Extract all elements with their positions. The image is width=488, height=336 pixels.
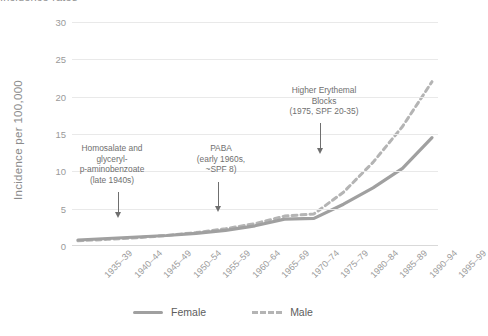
x-axis-tick-labels: 1935–391940–441945–491950–541955–591960–… bbox=[72, 248, 438, 296]
y-tick-25: 25 bbox=[55, 54, 66, 65]
y-tick-0: 0 bbox=[61, 241, 66, 252]
annotation-erythemal: Higher Erythemal Blocks (1975, SPF 20-35… bbox=[272, 85, 376, 117]
x-tick-1: 1940–44 bbox=[132, 248, 164, 280]
gridline-30 bbox=[72, 22, 438, 23]
chart-title: Incidence rates bbox=[0, 0, 78, 3]
legend-swatch-male-icon bbox=[252, 311, 282, 314]
legend-label-female: Female bbox=[171, 306, 206, 318]
x-tick-9: 1980–84 bbox=[368, 248, 400, 280]
annotation-paba-arrow bbox=[218, 182, 219, 206]
plot-area bbox=[72, 22, 438, 246]
x-tick-3: 1950–54 bbox=[191, 248, 223, 280]
gridline-15 bbox=[72, 134, 438, 135]
gridline-5 bbox=[72, 209, 438, 210]
x-tick-12: 1995–99 bbox=[456, 248, 488, 280]
x-tick-5: 1960–64 bbox=[250, 248, 282, 280]
legend-label-male: Male bbox=[290, 306, 313, 318]
y-axis-label: Incidence per 100,000 bbox=[12, 45, 24, 235]
annotation-paba: PABA (early 1960s, ~SPF 8) bbox=[183, 143, 259, 175]
x-tick-11: 1990–94 bbox=[427, 248, 459, 280]
x-tick-0: 1935–39 bbox=[102, 248, 134, 280]
x-tick-2: 1945–49 bbox=[161, 248, 193, 280]
gridline-25 bbox=[72, 59, 438, 60]
chart-legend: Female Male bbox=[0, 306, 446, 318]
x-tick-10: 1985–89 bbox=[397, 248, 429, 280]
annotation-homosalate: Homosalate and glyceryl- p-aminobenzoate… bbox=[58, 143, 166, 185]
legend-swatch-female-icon bbox=[133, 311, 163, 314]
gridline-20 bbox=[72, 97, 438, 98]
y-tick-15: 15 bbox=[55, 129, 66, 140]
y-axis-tick-labels: 0 5 10 15 20 25 30 bbox=[34, 22, 66, 246]
legend-item-female[interactable]: Female bbox=[133, 306, 206, 318]
x-tick-7: 1970–74 bbox=[309, 248, 341, 280]
y-tick-20: 20 bbox=[55, 91, 66, 102]
x-tick-6: 1965–69 bbox=[279, 248, 311, 280]
y-tick-5: 5 bbox=[61, 203, 66, 214]
annotation-erythemal-arrow bbox=[320, 123, 321, 148]
y-tick-30: 30 bbox=[55, 17, 66, 28]
x-axis-baseline bbox=[72, 245, 438, 246]
legend-item-male[interactable]: Male bbox=[252, 306, 313, 318]
annotation-homosalate-arrow bbox=[118, 192, 119, 212]
x-tick-4: 1955–59 bbox=[220, 248, 252, 280]
x-tick-8: 1975–79 bbox=[338, 248, 370, 280]
